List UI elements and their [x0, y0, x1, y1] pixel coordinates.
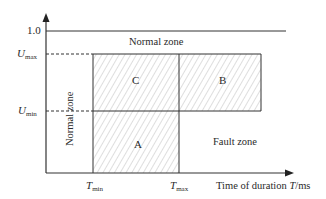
region-b-label: B: [219, 75, 226, 86]
y-axis-arrow-icon: [43, 13, 50, 22]
y-tick-umin-symbol: U: [18, 104, 26, 116]
x-axis-arrow-icon: [285, 170, 294, 177]
x-axis-title-unit: /ms: [295, 180, 310, 191]
region-a-label: A: [134, 139, 142, 150]
x-axis-title: Time of duration T/ms: [216, 181, 310, 192]
y-tick-umin: Umin: [18, 105, 37, 118]
x-axis-title-prefix: Time of duration: [216, 180, 289, 191]
x-tick-tmin: Tmin: [86, 180, 103, 193]
x-tick-tmax: Tmax: [170, 180, 188, 193]
y-tick-umax-sub: max: [25, 53, 37, 61]
fault-zone-label: Fault zone: [213, 137, 257, 148]
normal-zone-left-label: Normal zone: [65, 91, 76, 146]
x-tick-tmin-sub: min: [92, 185, 103, 193]
zone-diagram: [0, 0, 326, 199]
y-tick-umin-sub: min: [26, 110, 37, 118]
normal-zone-top-label: Normal zone: [129, 37, 184, 48]
region-c-label: C: [132, 75, 139, 86]
x-tick-tmax-sub: max: [176, 185, 188, 193]
y-tick-umax-symbol: U: [17, 47, 25, 59]
y-tick-one: 1.0: [27, 25, 41, 36]
y-tick-umax: Umax: [17, 48, 37, 61]
